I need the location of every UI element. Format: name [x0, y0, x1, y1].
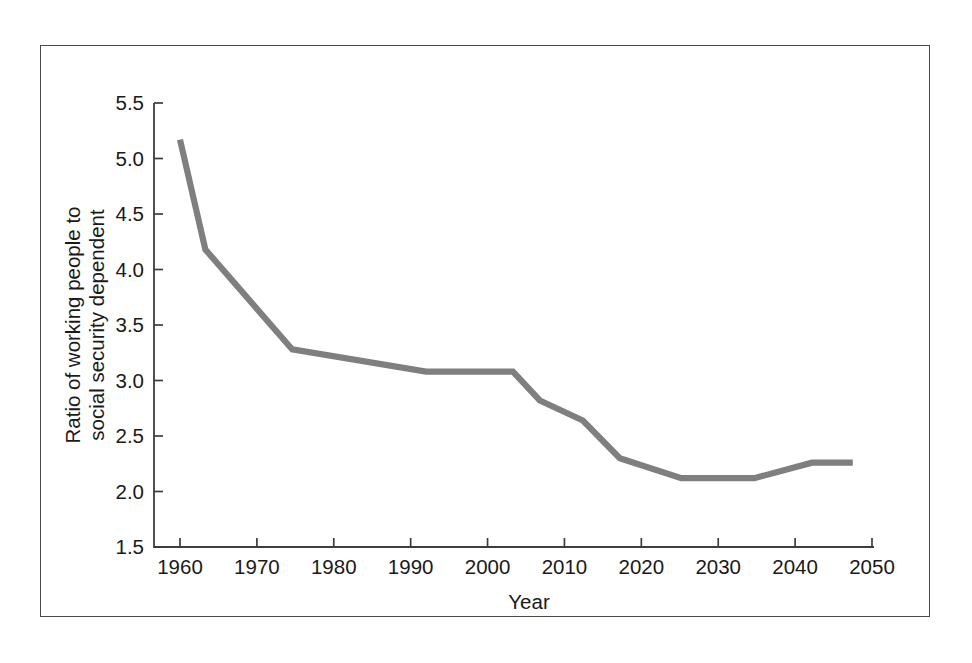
y-axis-tick-label: 3.5 [116, 313, 145, 336]
y-axis-tick-label: 1.5 [116, 535, 145, 558]
y-axis-tick-label: 4.5 [116, 202, 145, 225]
x-axis-tick-marks [180, 538, 872, 547]
x-axis-tick-labels: 1960197019801990200020102020203020402050 [157, 555, 895, 578]
y-axis-title: Ratio of working people to social securi… [61, 206, 108, 443]
y-axis-tick-label: 2.0 [116, 480, 145, 503]
axis-spines [154, 103, 874, 547]
x-axis-tick-label: 2000 [465, 555, 511, 578]
y-axis-tick-label: 5.0 [116, 147, 145, 170]
y-axis-tick-label: 3.0 [116, 369, 145, 392]
x-axis-title: Year [508, 590, 550, 613]
y-axis-tick-label: 2.5 [116, 424, 145, 447]
y-axis-title-line-1: Ratio of working people to [61, 206, 84, 443]
y-axis-tick-marks [154, 103, 163, 547]
x-axis-tick-label: 2010 [542, 555, 588, 578]
x-axis-tick-label: 2030 [695, 555, 741, 578]
x-axis-tick-label: 1960 [157, 555, 203, 578]
y-axis-tick-label: 5.5 [116, 91, 145, 114]
x-axis-tick-label: 1990 [388, 555, 434, 578]
y-axis-tick-label: 4.0 [116, 258, 145, 281]
x-axis-tick-label: 2040 [772, 555, 818, 578]
data-series-line [180, 140, 853, 479]
y-axis-tick-labels: 1.52.02.53.03.54.04.55.05.5 [116, 91, 145, 558]
x-axis-tick-label: 1970 [234, 555, 280, 578]
y-axis-title-line-2: social security dependent [85, 209, 108, 441]
x-axis-tick-label: 2020 [619, 555, 665, 578]
line-chart: 1.52.02.53.03.54.04.55.05.5 196019701980… [0, 0, 972, 663]
plot-area: 1.52.02.53.03.54.04.55.05.5 196019701980… [0, 0, 972, 663]
figure-canvas: 1.52.02.53.03.54.04.55.05.5 196019701980… [0, 0, 972, 663]
x-axis-tick-label: 2050 [849, 555, 895, 578]
x-axis-tick-label: 1980 [311, 555, 357, 578]
